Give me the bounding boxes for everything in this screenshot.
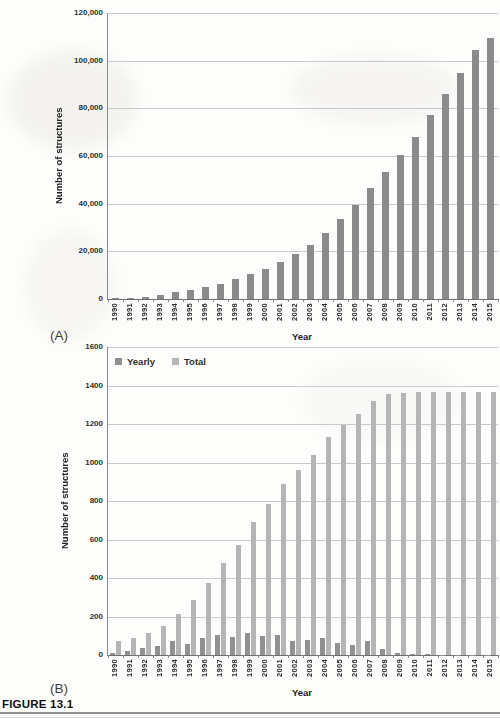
x-tick-slot: 1994 (167, 303, 182, 331)
bar-yearly-2007 (365, 641, 370, 655)
x-tick-slot: 2014 (467, 303, 482, 331)
x-tick-slot: 2006 (347, 659, 362, 687)
x-tick-label: 2006 (351, 303, 359, 321)
bar-yearly-1997 (215, 635, 220, 655)
gridline (108, 463, 498, 464)
x-tick-slot: 2006 (347, 303, 362, 331)
x-tick-label: 1997 (216, 659, 224, 677)
bar-2014 (472, 50, 479, 299)
x-tick-slot: 2014 (467, 659, 482, 687)
bar-2012 (442, 94, 449, 299)
bar-yearly-2004 (320, 638, 325, 655)
y-tick-label: 80,000 (57, 104, 103, 112)
x-tick-slot: 2000 (257, 659, 272, 687)
bar-2002 (292, 254, 299, 299)
bar-yearly-2000 (260, 636, 265, 655)
x-tick-slot: 1990 (107, 659, 122, 687)
y-tick-label: 0 (57, 651, 103, 659)
x-tick-label: 1992 (141, 303, 149, 321)
x-tick-label: 2008 (381, 659, 389, 677)
x-tick-mark (168, 299, 169, 302)
bar-yearly-2010 (410, 654, 415, 655)
x-tick-slot: 1998 (227, 659, 242, 687)
bar-2003 (307, 245, 314, 299)
x-tick-label: 1998 (231, 303, 239, 321)
gridline (108, 540, 498, 541)
gridline (108, 13, 498, 14)
x-tick-slot: 2008 (377, 659, 392, 687)
x-tick-mark (318, 655, 319, 658)
x-tick-label: 1991 (126, 659, 134, 677)
bar-total-1999 (251, 522, 256, 655)
bar-total-2005 (341, 425, 346, 655)
y-tick-label: 120,000 (57, 9, 103, 17)
y-tick-label: 1600 (57, 343, 103, 351)
bar-1998 (232, 279, 239, 299)
x-tick-mark (243, 299, 244, 302)
x-tick-label: 2009 (396, 303, 404, 321)
bar-total-2008 (386, 394, 391, 655)
bar-total-2006 (356, 414, 361, 655)
x-tick-label: 1995 (186, 659, 194, 677)
x-tick-slot: 1991 (122, 303, 137, 331)
x-tick-mark (408, 299, 409, 302)
x-tick-label: 2008 (381, 303, 389, 321)
x-tick-mark (138, 299, 139, 302)
x-tick-slot: 2001 (272, 303, 287, 331)
x-tick-slot: 1992 (137, 659, 152, 687)
bar-total-1993 (161, 626, 166, 655)
x-tick-mark (273, 655, 274, 658)
x-tick-mark (363, 655, 364, 658)
x-tick-label: 1990 (111, 303, 119, 321)
x-tick-slot: 1997 (212, 659, 227, 687)
x-tick-label: 2007 (366, 659, 374, 677)
x-tick-slot: 1990 (107, 303, 122, 331)
bar-yearly-2006 (350, 645, 355, 655)
chart-a-x-axis-title: Year (107, 331, 497, 342)
x-tick-label: 1993 (156, 303, 164, 321)
x-tick-slot: 1992 (137, 303, 152, 331)
x-tick-label: 2000 (261, 659, 269, 677)
x-tick-label: 2009 (396, 659, 404, 677)
y-tick-label: 800 (57, 497, 103, 505)
bar-1993 (157, 295, 164, 299)
x-tick-label: 1997 (216, 303, 224, 321)
bar-total-1998 (236, 545, 241, 655)
x-tick-slot: 2011 (422, 303, 437, 331)
total-legend-swatch-icon (172, 358, 179, 365)
bar-yearly-2014 (470, 655, 475, 656)
x-tick-label: 1991 (126, 303, 134, 321)
x-tick-slot: 2013 (452, 303, 467, 331)
bar-2015 (487, 38, 494, 299)
gridline (108, 61, 498, 62)
bar-yearly-2011 (425, 654, 430, 655)
x-tick-slot: 2010 (407, 303, 422, 331)
x-tick-label: 1999 (246, 659, 254, 677)
chart-a-x-tick-labels: 1990199119921993199419951996199719981999… (107, 303, 497, 331)
x-tick-mark (483, 655, 484, 658)
x-tick-mark (363, 299, 364, 302)
x-tick-mark (228, 299, 229, 302)
x-tick-mark (183, 299, 184, 302)
x-tick-slot: 2009 (392, 659, 407, 687)
bar-1996 (202, 287, 209, 299)
bar-yearly-2001 (275, 635, 280, 655)
x-tick-mark (303, 299, 304, 302)
x-tick-slot: 1999 (242, 303, 257, 331)
x-tick-label: 2003 (306, 303, 314, 321)
bar-2007 (367, 188, 374, 299)
x-tick-mark (258, 299, 259, 302)
bar-yearly-2015 (485, 655, 490, 656)
x-tick-slot: 1993 (152, 659, 167, 687)
x-tick-label: 2013 (456, 659, 464, 677)
x-tick-label: 2005 (336, 659, 344, 677)
x-tick-mark (288, 299, 289, 302)
bar-total-2014 (476, 392, 481, 655)
x-tick-slot: 1998 (227, 303, 242, 331)
yearly-legend-swatch-icon (115, 358, 122, 365)
x-tick-slot: 2001 (272, 659, 287, 687)
x-tick-mark (228, 655, 229, 658)
bar-total-1990 (116, 641, 121, 655)
x-tick-label: 2001 (276, 303, 284, 321)
x-tick-slot: 2003 (302, 659, 317, 687)
